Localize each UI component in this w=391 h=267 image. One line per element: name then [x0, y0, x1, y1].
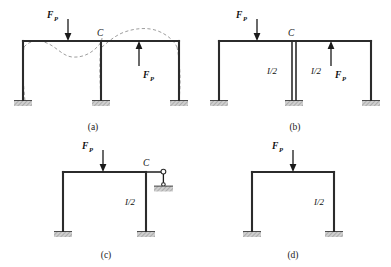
load-label-fp-text: F	[271, 141, 279, 151]
inertia-label-column: I/2	[313, 197, 324, 207]
panel-b-support-left	[210, 101, 228, 106]
load-label-fp-text: F	[235, 10, 243, 20]
panel-a-support-middle	[92, 101, 110, 106]
inertia-label-right-half: I/2	[310, 66, 321, 76]
inertia-label-left-half: I/2	[266, 66, 277, 76]
panel-b-support-middle	[285, 101, 303, 106]
panel-caption-a: (a)	[88, 122, 99, 133]
panel-d-support-left	[243, 232, 261, 237]
panel-c-support-left	[54, 232, 72, 237]
figure-canvas: F P F P C (a)	[0, 0, 391, 267]
link-pin-circle	[161, 169, 166, 174]
load-label-fp-text: F	[142, 70, 150, 80]
panel-a-support-right	[170, 101, 188, 106]
load-label-fp-text: F	[334, 70, 342, 80]
load-label-fp-text: F	[46, 10, 54, 20]
panel-b-support-right	[362, 101, 380, 106]
panel-caption-d: (d)	[287, 250, 298, 261]
inertia-label-column: I/2	[124, 197, 135, 207]
panel-d-support-right	[325, 232, 343, 237]
node-label-c: C	[143, 158, 150, 168]
panel-c-support-middle	[137, 232, 155, 237]
panel-caption-b: (b)	[289, 122, 300, 133]
panel-caption-c: (c)	[101, 250, 112, 261]
panel-a-support-left	[14, 101, 32, 106]
node-label-c: C	[97, 28, 104, 38]
node-label-c: C	[288, 28, 295, 38]
load-label-fp-text: F	[81, 141, 89, 151]
structural-frame-figure: F P F P C (a)	[0, 0, 391, 267]
